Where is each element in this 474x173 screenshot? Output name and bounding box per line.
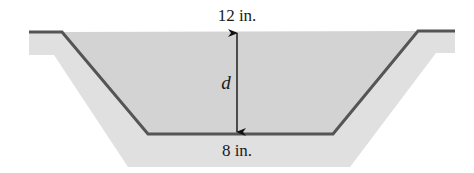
depth-label: d: [221, 72, 231, 93]
channel-diagram: 12 in. d 8 in.: [0, 0, 474, 173]
top-width-label: 12 in.: [218, 6, 257, 25]
bottom-width-label: 8 in.: [222, 141, 252, 160]
